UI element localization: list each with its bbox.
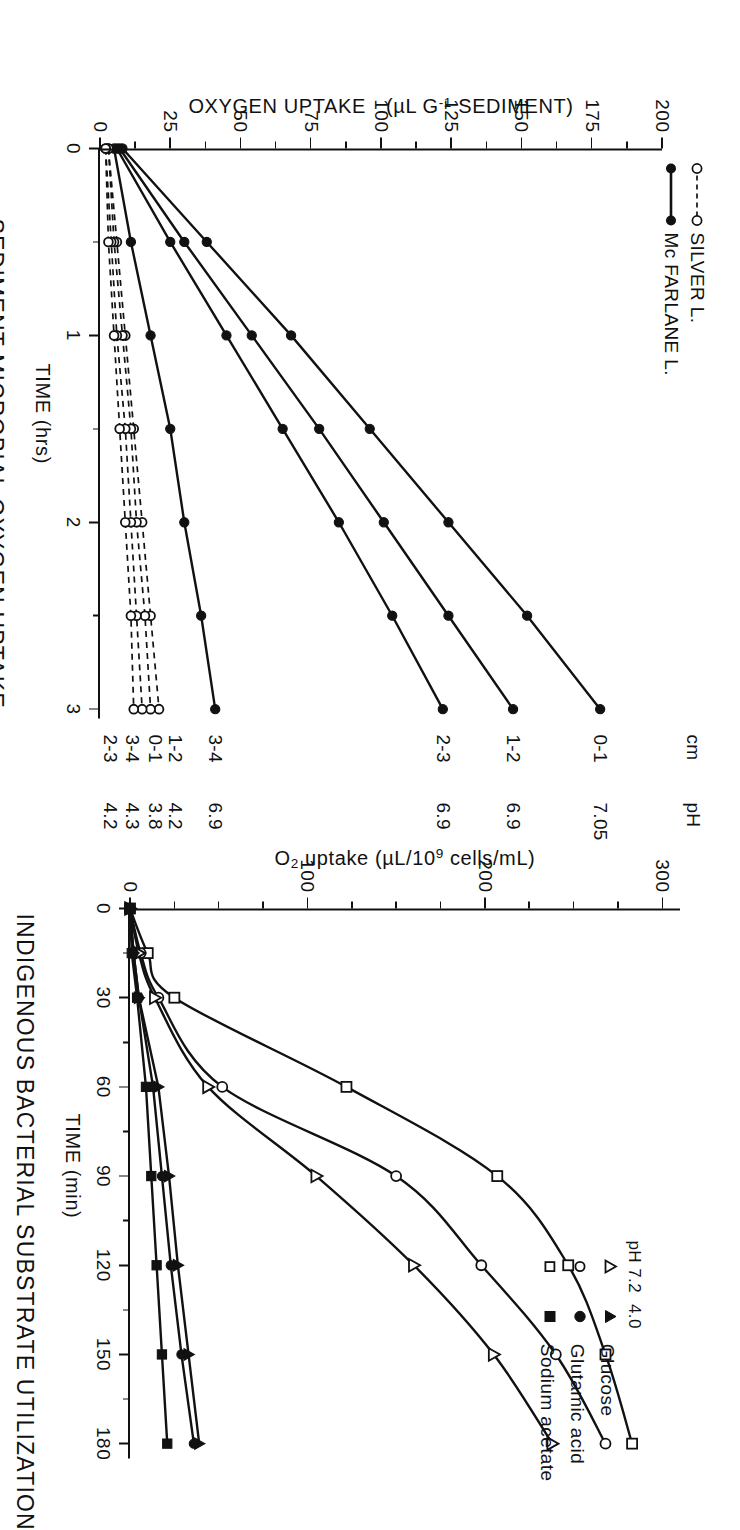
left-y-axis-unit-close: SEDIMENT) (452, 95, 574, 117)
y-tick (521, 137, 523, 148)
y-tick (626, 141, 628, 148)
filled-circle-icon (563, 1304, 591, 1338)
legend-label-silver: SILVER L. (686, 232, 708, 323)
x-tick (119, 1175, 130, 1177)
data-point-filled-circle (523, 611, 532, 620)
open-square-icon (533, 1240, 561, 1302)
y-tick (573, 901, 575, 908)
legend-row[interactable]: Sodium acetate (533, 1240, 561, 1490)
right-panel-title: INDIGENOUS BACTERIAL SUBSTRATE UTILIZATI… (11, 913, 38, 1530)
y-tick (556, 141, 558, 148)
data-point-filled-circle (211, 704, 220, 713)
y-tick (528, 901, 530, 908)
data-point-filled-square (152, 1260, 161, 1269)
y-tick-label: 0 (119, 836, 141, 892)
open-circle-icon (563, 1240, 591, 1302)
x-tick (119, 1264, 130, 1266)
right-y-axis-unit-close: cells/mL) (444, 846, 536, 868)
data-point-open-circle (155, 704, 164, 713)
legend-label-mcfarlane: Mc FARLANE L. (660, 232, 682, 376)
x-tick (89, 334, 100, 336)
data-point-open-circle (217, 1081, 227, 1091)
y-tick (218, 901, 220, 908)
x-tick (119, 1442, 130, 1444)
data-point-filled-circle (126, 237, 135, 246)
open-circle-dashed-icon (687, 162, 707, 226)
legend-item-mcfarlane[interactable]: Mc FARLANE L. (658, 162, 684, 376)
data-point-open-square (341, 1081, 351, 1091)
data-point-filled-circle (202, 237, 211, 246)
y-tick (395, 901, 397, 908)
left-panel-title: SEDIMENT MICROBIAL OXYGEN UPTAKE (0, 218, 8, 708)
y-tick (484, 897, 486, 908)
x-tick (123, 1309, 130, 1311)
filled-circle-solid-icon (661, 162, 681, 226)
data-point-filled-circle (388, 611, 397, 620)
data-point-filled-square (157, 1349, 166, 1358)
series-line (130, 908, 552, 1443)
left-y-axis-title: OXYGEN UPTAKE (µL G-1 SEDIMENT) (171, 94, 591, 117)
data-point-filled-circle (278, 424, 287, 433)
y-tick (307, 897, 309, 908)
x-tick-label: 0 (62, 142, 84, 153)
filled-square-icon (533, 1304, 561, 1338)
legend-row[interactable]: Glucose (593, 1240, 621, 1490)
x-tick-label: 180 (92, 1427, 114, 1460)
legend-label: Sodium acetate (533, 1339, 561, 1490)
data-point-open-circle (121, 517, 130, 526)
open-triangle-icon (593, 1240, 621, 1302)
data-point-open-circle (115, 424, 124, 433)
data-point-filled-square (132, 993, 141, 1002)
legend-item-silver[interactable]: SILVER L. (684, 162, 710, 376)
data-point-open-circle (476, 1260, 486, 1270)
x-tick-label: 90 (92, 1164, 114, 1186)
y-tick (99, 137, 101, 148)
data-point-open-circle (391, 1171, 401, 1181)
data-point-filled-circle (315, 424, 324, 433)
data-point-filled-circle (222, 330, 231, 339)
y-tick (380, 137, 382, 148)
right-y-axis-unit-open: uptake (µL/10 (299, 846, 436, 868)
y-tick (591, 137, 593, 148)
x-tick-label: 120 (92, 1248, 114, 1281)
filled-triangle-icon (593, 1304, 621, 1338)
left-y-axis-title-text: OXYGEN UPTAKE (188, 95, 365, 117)
right-y-axis-unit-exponent: 9 (436, 846, 444, 861)
data-point-filled-circle (247, 330, 256, 339)
data-point-filled-circle (596, 704, 605, 713)
legend-row[interactable]: Glutamic acid (563, 1240, 591, 1490)
data-point-filled-circle (177, 1349, 186, 1358)
data-point-open-circle (138, 704, 147, 713)
x-tick-label: 1 (62, 329, 84, 340)
y-tick (662, 897, 664, 908)
right-x-axis-title: TIME (min) (61, 1113, 84, 1218)
y-tick (617, 901, 619, 908)
x-tick-label: 150 (92, 1337, 114, 1370)
data-point-filled-circle (157, 1171, 166, 1180)
data-point-open-circle (110, 330, 119, 339)
legend-label: Glutamic acid (563, 1339, 591, 1490)
data-point-filled-circle (166, 424, 175, 433)
left-legend: SILVER L. Mc FARLANE L. (658, 162, 710, 376)
x-tick (93, 614, 100, 616)
panel-sediment-microbial-oxygen-uptake: 0123 0255075100125150175200 TIME (hrs) O… (0, 0, 740, 758)
x-tick-label: 30 (92, 986, 114, 1008)
data-point-filled-circle (180, 237, 189, 246)
y-tick (415, 141, 417, 148)
x-tick (123, 1398, 130, 1400)
y-tick-label: 300 (651, 836, 673, 892)
right-y-axis-species: O (275, 846, 291, 868)
x-tick (89, 521, 100, 523)
data-point-filled-circle (334, 517, 343, 526)
x-tick (93, 241, 100, 243)
data-point-filled-circle (286, 330, 295, 339)
x-tick (123, 1219, 130, 1221)
y-tick (205, 141, 207, 148)
x-tick (119, 1086, 130, 1088)
y-tick-label: 0 (89, 78, 111, 132)
data-point-open-circle (129, 704, 138, 713)
x-tick-label: 2 (62, 516, 84, 527)
left-x-axis (98, 148, 100, 718)
y-tick (661, 137, 663, 148)
legend-header-ph40: 4.0 (623, 1304, 644, 1338)
